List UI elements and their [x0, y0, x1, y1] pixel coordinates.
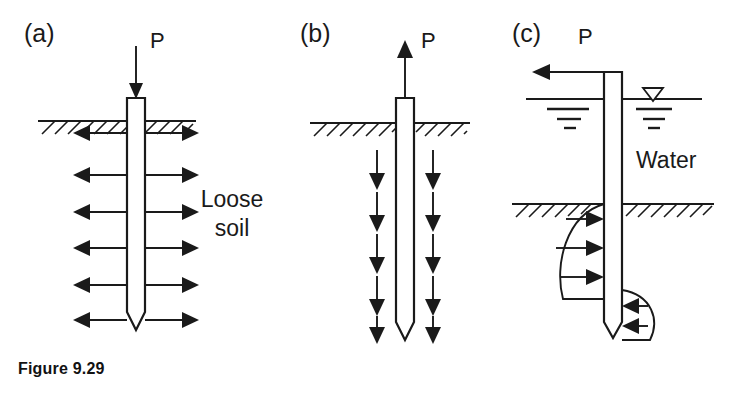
figure-drawing: (a) P: [0, 0, 739, 399]
panel-a-label: (a): [24, 19, 55, 47]
panel-b-label: (b): [300, 19, 331, 47]
panel-a-load-arrow-icon: [129, 46, 143, 99]
panel-c-load-label: P: [578, 24, 593, 49]
panel-c-water-surface-left: [526, 99, 604, 128]
panel-a-pile: [127, 98, 145, 330]
panel-b-hatching-icon: [314, 123, 467, 136]
panel-c-label: (c): [512, 19, 541, 47]
panel-b-pile: [396, 98, 414, 340]
figure-container: (a) P: [0, 0, 739, 399]
panel-b-ground-line: [310, 123, 470, 136]
panel-a-load-label: P: [150, 28, 165, 53]
panel-a-soil-label-line1: Loose: [201, 186, 264, 212]
panel-c-water-surface-right: [622, 88, 702, 128]
panel-c-pressure-bulb-left: [556, 204, 604, 299]
figure-caption: Figure 9.29: [18, 360, 105, 378]
panel-b-load-label: P: [421, 28, 436, 53]
panel-c-pile: [604, 72, 622, 338]
panel-c-pressure-bulb-right: [622, 290, 654, 340]
panel-a-soil-label-line2: soil: [215, 215, 250, 241]
panel-c-water-label: Water: [636, 147, 697, 173]
panel-a: (a) P: [24, 19, 263, 330]
panel-c: (c) P Water: [512, 19, 714, 340]
panel-b-load-arrow-icon: [397, 40, 413, 98]
panel-b: (b) P: [300, 19, 470, 344]
